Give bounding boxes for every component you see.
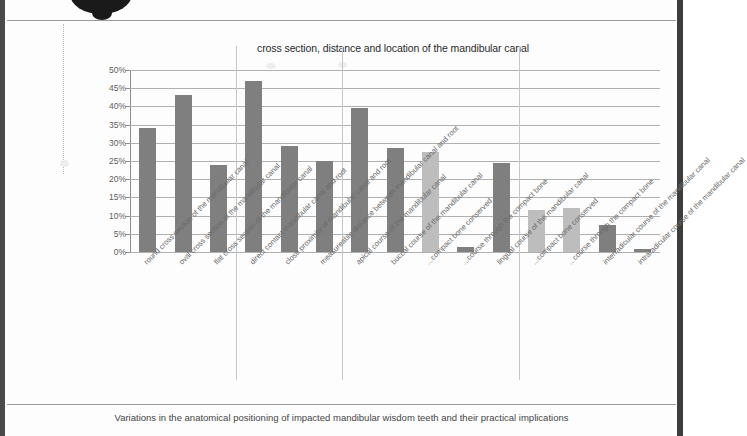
- y-axis-tick: [125, 125, 130, 126]
- y-axis-tick: [125, 179, 130, 180]
- figure-caption: Variations in the anatomical positioning…: [0, 412, 683, 423]
- y-axis-tick: [125, 197, 130, 198]
- y-axis-tick-label: 50%: [92, 65, 126, 75]
- y-axis-tick: [125, 70, 130, 71]
- chart-title: cross section, distance and location of …: [178, 42, 608, 54]
- y-axis-tick: [125, 88, 130, 89]
- y-axis-tick-label: 35%: [92, 120, 126, 130]
- gridline: [130, 125, 660, 126]
- y-axis-tick: [125, 216, 130, 217]
- bar[interactable]: [316, 161, 333, 252]
- gridline: [130, 88, 660, 89]
- y-axis-tick-label: 5%: [92, 229, 126, 239]
- y-axis-tick: [125, 106, 130, 107]
- y-axis-tick-label: 30%: [92, 138, 126, 148]
- y-axis-tick-label: 20%: [92, 174, 126, 184]
- x-axis-category-labels: round cross section of the mandibular ca…: [0, 256, 683, 406]
- y-axis-tick-label: 45%: [92, 83, 126, 93]
- bar[interactable]: [493, 163, 510, 252]
- scan-artifact-blob-tail: [92, 6, 112, 20]
- y-axis-tick: [125, 252, 130, 253]
- y-axis-tick-label: 25%: [92, 156, 126, 166]
- gridline: [130, 143, 660, 144]
- y-axis-tick: [125, 143, 130, 144]
- bar-chart: cross section, distance and location of …: [0, 24, 683, 404]
- gridline: [130, 106, 660, 107]
- y-axis-tick-label: 15%: [92, 192, 126, 202]
- y-axis-tick: [125, 234, 130, 235]
- y-axis-tick-labels: 50%45%40%35%30%25%20%15%10%5%0%: [88, 70, 126, 253]
- bar[interactable]: [139, 128, 156, 252]
- gridline: [130, 70, 660, 71]
- y-axis-tick-label: 10%: [92, 211, 126, 221]
- header-divider: [7, 20, 676, 21]
- y-axis-tick-label: 40%: [92, 101, 126, 111]
- y-axis-tick: [125, 161, 130, 162]
